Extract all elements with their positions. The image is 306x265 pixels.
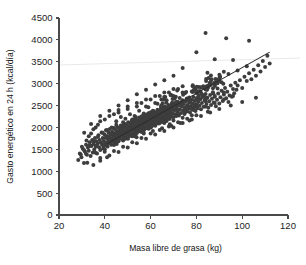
data-point	[153, 132, 157, 136]
data-point	[222, 97, 226, 101]
data-point	[159, 118, 163, 122]
data-point	[115, 142, 119, 146]
data-point	[205, 71, 209, 75]
data-point	[110, 125, 114, 129]
data-point	[114, 134, 118, 138]
data-point	[254, 96, 258, 100]
data-point	[174, 114, 178, 118]
y-tick-label: 3500	[31, 56, 52, 67]
x-axis-tick-labels: 20406080100120	[54, 220, 296, 231]
data-point	[195, 85, 199, 89]
data-point	[178, 121, 182, 125]
data-point	[153, 83, 157, 87]
data-point	[261, 59, 265, 63]
data-point	[117, 108, 121, 112]
data-point	[224, 36, 228, 40]
data-point	[149, 124, 153, 128]
data-point	[263, 65, 267, 69]
data-point	[98, 119, 102, 123]
data-point	[153, 94, 157, 98]
data-point	[144, 88, 148, 92]
data-point	[240, 100, 244, 104]
data-point	[94, 151, 98, 155]
data-point	[169, 93, 173, 97]
data-point	[204, 79, 208, 83]
data-point	[231, 58, 235, 62]
regression-trendline	[107, 52, 270, 143]
data-point	[208, 111, 212, 115]
data-point	[192, 103, 196, 107]
data-point	[126, 98, 130, 102]
data-point	[101, 131, 105, 135]
data-point	[165, 119, 169, 123]
data-point	[119, 125, 123, 129]
data-point	[213, 57, 217, 61]
y-tick-label: 1000	[31, 166, 52, 177]
data-point	[139, 101, 143, 105]
data-point	[134, 115, 138, 119]
data-point	[217, 73, 221, 77]
data-point	[87, 149, 91, 153]
data-point	[114, 123, 118, 127]
data-point	[184, 90, 188, 94]
data-point	[236, 83, 240, 87]
figure-scatter-plot: 050010001500200025003000350040004500 204…	[0, 0, 306, 265]
data-point	[176, 108, 180, 112]
data-point	[85, 161, 89, 165]
data-point	[256, 63, 260, 67]
data-point	[107, 153, 111, 157]
data-point	[247, 39, 251, 43]
data-point	[222, 90, 226, 94]
data-point	[89, 154, 93, 158]
data-point	[144, 137, 148, 141]
data-point	[112, 112, 116, 116]
data-point	[184, 106, 188, 110]
data-point	[76, 158, 80, 162]
chart-canvas: 050010001500200025003000350040004500 204…	[0, 0, 306, 265]
data-point	[223, 86, 227, 90]
data-point	[112, 149, 116, 153]
data-point	[128, 112, 132, 116]
data-point	[247, 71, 251, 75]
data-point	[242, 75, 246, 79]
data-point	[162, 90, 166, 94]
data-point	[135, 101, 139, 105]
data-point	[217, 102, 221, 106]
data-point	[268, 62, 272, 66]
data-point	[121, 120, 125, 124]
data-point	[151, 129, 155, 133]
data-point	[84, 139, 88, 143]
data-point	[199, 114, 203, 118]
data-point	[226, 100, 230, 104]
data-point	[181, 116, 185, 120]
x-tick-label: 60	[145, 220, 156, 231]
data-point	[153, 101, 157, 105]
data-point	[119, 115, 123, 119]
data-point	[141, 131, 145, 135]
data-point	[126, 146, 130, 150]
data-point	[89, 122, 93, 126]
data-point	[181, 93, 185, 97]
data-point	[240, 86, 244, 90]
data-point	[168, 114, 172, 118]
data-point	[181, 66, 185, 70]
data-point	[135, 104, 139, 108]
data-point	[117, 104, 121, 108]
data-point	[162, 78, 166, 82]
data-point	[110, 132, 114, 136]
data-point	[259, 69, 263, 73]
y-axis-tick-labels: 050010001500200025003000350040004500	[31, 12, 52, 220]
data-point	[225, 90, 229, 94]
data-point	[105, 128, 109, 132]
data-point	[191, 84, 195, 88]
data-point	[123, 117, 127, 121]
data-point	[135, 92, 139, 96]
data-point	[117, 150, 121, 154]
data-point	[221, 82, 225, 86]
data-point	[204, 31, 208, 35]
data-point	[173, 97, 177, 101]
data-point	[98, 156, 102, 160]
data-point	[98, 114, 102, 118]
data-point	[190, 113, 194, 117]
data-point	[194, 88, 198, 92]
